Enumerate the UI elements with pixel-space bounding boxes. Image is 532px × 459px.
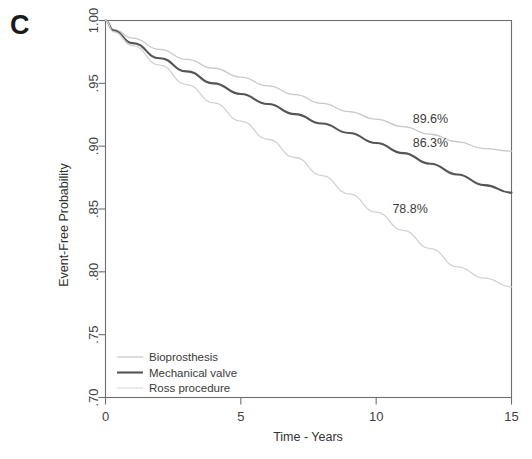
x-tick-label: 0 bbox=[102, 409, 109, 424]
x-tick-label: 15 bbox=[504, 409, 518, 424]
figure-panel-c: C 1.00.95.90.85.80.75.70 051015 89.6%86.… bbox=[0, 0, 532, 459]
endpoint-label-1: 89.6% bbox=[413, 112, 448, 126]
y-tick-label: .70 bbox=[86, 388, 101, 406]
x-tick-label: 5 bbox=[237, 409, 244, 424]
y-axis-ticks: 1.00.95.90.85.80.75.70 bbox=[86, 8, 106, 407]
y-axis-title: Event-Free Probability bbox=[57, 162, 71, 286]
kaplan-meier-chart: 1.00.95.90.85.80.75.70 051015 89.6%86.3%… bbox=[0, 0, 532, 459]
curve-endpoint-labels: 89.6%86.3%78.8% bbox=[392, 112, 448, 216]
endpoint-label-3: 78.8% bbox=[392, 202, 427, 216]
y-tick-label: .85 bbox=[86, 200, 101, 218]
plot-frame bbox=[106, 21, 512, 398]
x-axis-title: Time - Years bbox=[273, 430, 343, 444]
y-tick-label: .95 bbox=[86, 74, 101, 92]
legend-label-3: Ross procedure bbox=[149, 382, 230, 394]
x-axis-ticks: 051015 bbox=[102, 398, 519, 424]
curve-1 bbox=[106, 21, 512, 152]
x-tick-label: 10 bbox=[369, 409, 383, 424]
y-tick-label: 1.00 bbox=[86, 8, 101, 33]
legend-label-2: Mechanical valve bbox=[149, 367, 237, 379]
y-tick-label: .75 bbox=[86, 326, 101, 344]
data-curves bbox=[106, 21, 512, 287]
endpoint-label-2: 86.3% bbox=[413, 136, 448, 150]
panel-letter: C bbox=[10, 12, 30, 39]
y-tick-label: .90 bbox=[86, 137, 101, 155]
chart-legend: BioprosthesisMechanical valveRoss proced… bbox=[117, 351, 237, 394]
y-tick-label: .80 bbox=[86, 263, 101, 281]
legend-label-1: Bioprosthesis bbox=[149, 351, 218, 363]
